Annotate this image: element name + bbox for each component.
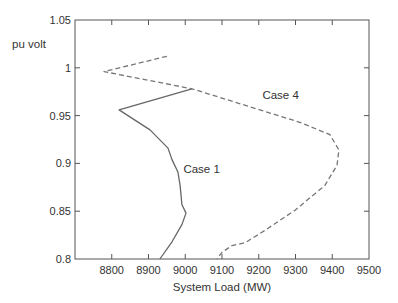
plot-frame (75, 20, 369, 259)
x-tick-label: 9000 (173, 264, 197, 276)
y-tick-label: 0.9 (56, 157, 71, 169)
x-tick-label: 9200 (247, 264, 271, 276)
series-label-case-4: Case 4 (262, 89, 299, 101)
y-tick-label: 0.85 (50, 205, 71, 217)
series-case-1-line (119, 89, 192, 259)
x-tick-label: 9100 (210, 264, 234, 276)
y-tick-label: 1 (65, 62, 71, 74)
x-tick-label: 8800 (100, 264, 124, 276)
x-tick-label: 8900 (136, 264, 160, 276)
series-case-4-line (104, 56, 339, 259)
voltage-load-chart: 880089009000910092009300940095000.80.850… (0, 0, 398, 303)
x-axis-label: System Load (MW) (173, 281, 272, 293)
y-tick-label: 0.95 (50, 110, 71, 122)
axis-ticks: 880089009000910092009300940095000.80.850… (50, 14, 382, 276)
series-lines (104, 56, 339, 259)
x-tick-label: 9400 (320, 264, 344, 276)
y-tick-label: 0.8 (56, 253, 71, 265)
y-tick-label: 1.05 (50, 14, 71, 26)
series-label-case-1: Case 1 (183, 163, 219, 175)
x-tick-label: 9300 (283, 264, 307, 276)
y-axis-label: pu volt (12, 38, 47, 50)
plot-border (75, 20, 369, 259)
x-tick-label: 9500 (357, 264, 381, 276)
